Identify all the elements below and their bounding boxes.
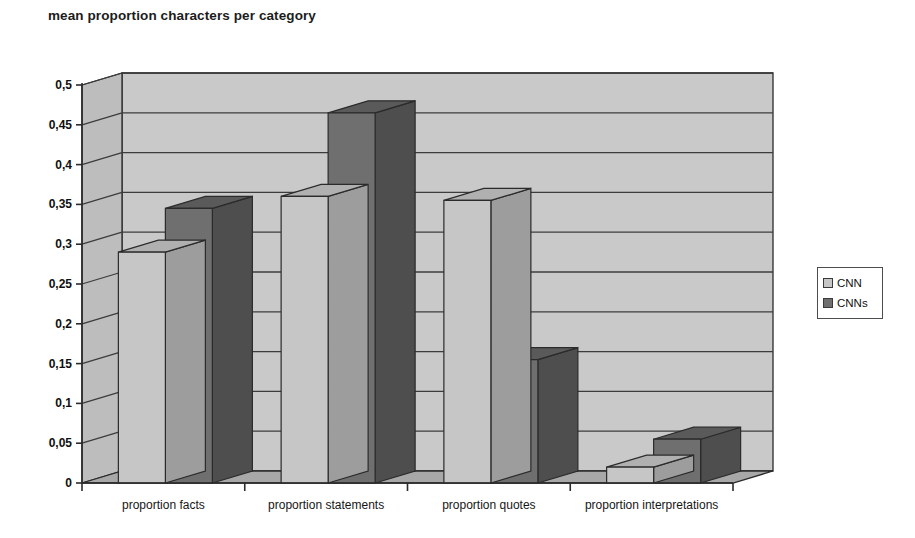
y-axis-tick-6: 0,3 [20,237,72,251]
x-axis-category-1: proportion statements [241,497,411,514]
x-axis-category-0: proportion facts [78,497,248,514]
y-axis-tick-4: 0,2 [20,317,72,331]
legend-swatch-cnns [823,298,833,308]
legend-label-cnns: CNNs [837,297,868,309]
y-axis-tick-0: 0 [20,476,72,490]
y-axis-tick-8: 0,4 [20,158,72,172]
x-axis-category-3: proportion interpretations [567,497,737,514]
chart-legend: CNN CNNs [817,267,883,319]
chart-container: mean proportion characters per category … [0,0,915,538]
y-axis-tick-3: 0,15 [20,357,72,371]
legend-swatch-cnn [823,278,833,288]
plot-area [0,0,915,538]
y-axis-tick-2: 0,1 [20,396,72,410]
y-axis-tick-1: 0,05 [20,436,72,450]
legend-item-0: CNN [823,273,882,293]
x-axis-category-2: proportion quotes [404,497,574,514]
legend-item-1: CNNs [823,293,882,313]
legend-label-cnn: CNN [837,277,862,289]
y-axis-tick-10: 0,5 [20,78,72,92]
y-axis-tick-9: 0,45 [20,118,72,132]
chart-svg [0,0,915,538]
y-axis-tick-5: 0,25 [20,277,72,291]
y-axis-tick-7: 0,35 [20,197,72,211]
